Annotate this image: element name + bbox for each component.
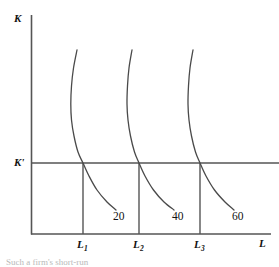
x-tick-label-l3: L3 — [194, 239, 204, 250]
isoquant-label-40: 40 — [172, 211, 184, 223]
y-axis-label: K — [14, 13, 21, 24]
x-tick-l2-subscript: 2 — [140, 244, 144, 253]
isoquant-curve-group — [71, 50, 234, 210]
isoquant-label-60: 60 — [232, 211, 244, 223]
isoquant-plot-svg — [0, 0, 279, 267]
isoquant-figure: K K' L L1 L2 L3 20 40 60 Such a firm's s… — [0, 0, 279, 267]
x-tick-l1-base: L — [77, 238, 84, 250]
cropped-caption: Such a firm's short-run — [6, 257, 206, 265]
isoquant-curve-60 — [188, 50, 234, 210]
x-axis-label: L — [259, 238, 266, 249]
x-tick-l3-base: L — [194, 238, 201, 250]
x-tick-l2-base: L — [133, 238, 140, 250]
isoquant-label-20: 20 — [113, 211, 125, 223]
x-tick-label-l1: L1 — [77, 239, 87, 250]
x-tick-label-l2: L2 — [133, 239, 143, 250]
x-tick-l3-subscript: 3 — [201, 244, 205, 253]
x-tick-l1-subscript: 1 — [84, 244, 88, 253]
k-star-label: K' — [14, 157, 24, 168]
isoquant-curve-40 — [127, 50, 174, 210]
isoquant-curve-20 — [71, 50, 116, 210]
